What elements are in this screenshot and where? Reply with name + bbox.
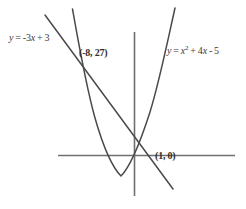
intersection-point-b-label: (1, 0): [155, 150, 175, 161]
line-equation-label: y = -3x + 3: [9, 32, 49, 43]
graph-figure: y = -3x + 3 y = x2 + 4x - 5 (-8, 27) (1,…: [0, 0, 246, 209]
line-curve: [45, 15, 173, 189]
parabola-equation-label: y = x2 + 4x - 5: [167, 45, 219, 56]
intersection-point-a-label: (-8, 27): [79, 47, 107, 58]
